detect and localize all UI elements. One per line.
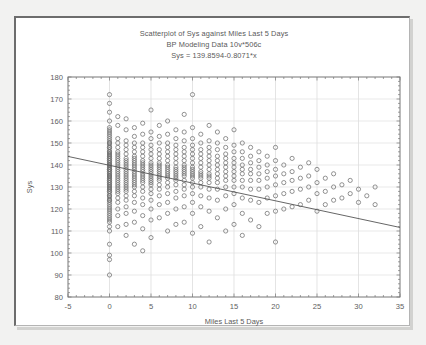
chart-panel: Scatterplot of Sys against Miles Last 5 … bbox=[14, 16, 410, 326]
svg-text:180: 180 bbox=[50, 73, 63, 82]
svg-text:160: 160 bbox=[50, 117, 63, 126]
svg-text:5: 5 bbox=[149, 302, 153, 311]
svg-text:170: 170 bbox=[50, 95, 63, 104]
svg-text:35: 35 bbox=[396, 302, 404, 311]
svg-text:20: 20 bbox=[271, 302, 279, 311]
svg-text:140: 140 bbox=[50, 161, 63, 170]
chart-window: Scatterplot of Sys against Miles Last 5 … bbox=[0, 0, 426, 345]
svg-text:0: 0 bbox=[107, 302, 111, 311]
svg-text:120: 120 bbox=[50, 205, 63, 214]
svg-text:110: 110 bbox=[51, 227, 63, 236]
svg-text:130: 130 bbox=[50, 183, 63, 192]
svg-text:10: 10 bbox=[188, 302, 196, 311]
svg-text:25: 25 bbox=[313, 302, 321, 311]
svg-text:30: 30 bbox=[354, 302, 362, 311]
data-points bbox=[107, 93, 377, 278]
svg-text:90: 90 bbox=[55, 271, 63, 280]
svg-text:15: 15 bbox=[230, 302, 238, 311]
svg-text:-5: -5 bbox=[65, 302, 72, 311]
svg-text:100: 100 bbox=[50, 249, 63, 258]
svg-text:150: 150 bbox=[50, 139, 63, 148]
x-axis-label: Miles Last 5 Days bbox=[205, 317, 264, 326]
svg-text:80: 80 bbox=[55, 293, 63, 302]
scatter-plot: -505101520253035809010011012013014015016… bbox=[16, 18, 412, 328]
y-axis-label: Sys bbox=[25, 181, 34, 194]
